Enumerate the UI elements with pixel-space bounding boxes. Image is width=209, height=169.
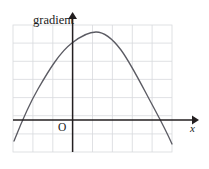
x-axis-label: x [190, 123, 195, 134]
grid-lines [13, 25, 172, 152]
gradient-parabola-figure: gradient x O [0, 0, 209, 169]
graph-canvas [0, 0, 209, 169]
origin-label: O [58, 122, 66, 134]
y-axis-label: gradient [33, 14, 74, 27]
